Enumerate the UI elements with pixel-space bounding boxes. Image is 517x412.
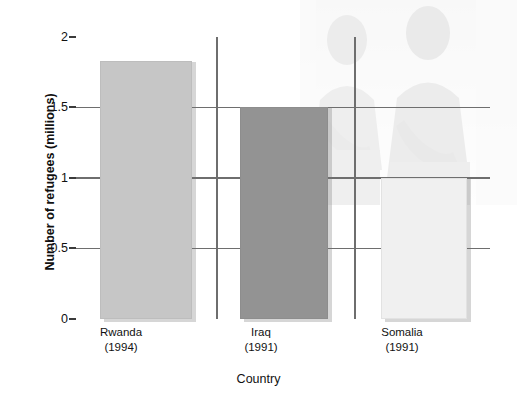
x-axis-title: Country [0,372,517,386]
ytick-mark-0_5 [69,247,76,249]
ytick-label-2: 2 [40,30,68,44]
ytick-mark-1 [69,177,76,179]
category-label-rwanda: Rwanda (1994) [78,325,164,355]
ytick-mark-2 [69,36,76,38]
plot-area [76,37,490,319]
category-year-iraq: (1991) [218,340,304,355]
category-name-iraq: Iraq [251,326,271,338]
y-axis-title: Number of refugees (millions) [43,52,57,312]
category-year-somalia: (1991) [357,340,447,355]
bar-chart: 2 1.5 1 0.5 0 Rwanda (1994) Iraq (1991) … [0,0,517,412]
category-label-iraq: Iraq (1991) [218,325,304,355]
category-name-somalia: Somalia [381,326,423,338]
bar-iraq[interactable] [240,107,328,319]
gridline-x-2 [354,37,356,319]
ytick-mark-1_5 [69,106,76,108]
ytick-mark-0 [69,318,76,320]
category-year-rwanda: (1994) [78,340,164,355]
bar-rwanda[interactable] [100,61,192,319]
bar-somalia[interactable] [381,178,467,319]
gridline-x-1 [216,37,218,319]
category-label-somalia: Somalia (1991) [357,325,447,355]
category-name-rwanda: Rwanda [100,326,142,338]
ytick-label-0: 0 [40,312,68,326]
